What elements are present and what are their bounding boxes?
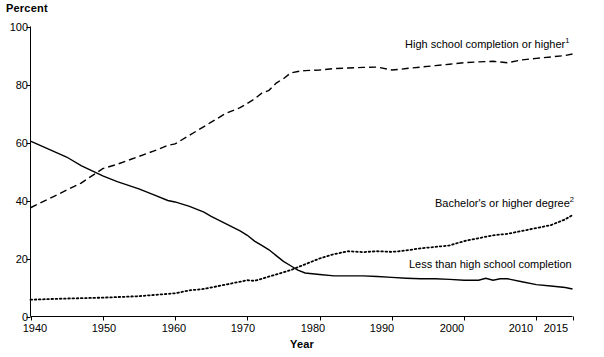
series-line-high-school (31, 54, 573, 208)
y-axis-ticks (27, 28, 31, 318)
series-line-bachelors (31, 215, 573, 300)
x-axis-ticks (32, 317, 574, 321)
plot-area (0, 0, 604, 357)
axes (27, 27, 574, 321)
chart-container: Percent Year 100 80 60 40 20 0 1940 1950… (0, 0, 604, 357)
series-line-less-than-hs (31, 141, 573, 289)
